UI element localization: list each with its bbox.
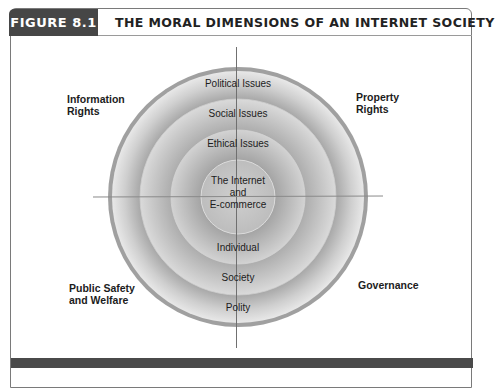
dimension-information-rights: Information Rights <box>67 93 125 117</box>
core-label-line3: E-commerce <box>188 199 288 210</box>
dimension-information-rights-line2: Rights <box>67 105 125 117</box>
dimension-property-rights: Property Rights <box>356 91 399 115</box>
dimension-public-safety-welfare: Public Safety and Welfare <box>69 282 135 306</box>
footer-bar <box>11 358 473 368</box>
dimension-governance: Governance <box>358 279 419 291</box>
dimension-information-rights-line1: Information <box>67 93 125 105</box>
dimension-public-safety-line1: Public Safety <box>69 282 135 294</box>
dimension-property-rights-line2: Rights <box>356 103 399 115</box>
core-label-line2: and <box>188 187 288 198</box>
ring-label-individual: Individual <box>188 242 288 253</box>
core-label-line1: The Internet <box>188 175 288 186</box>
dimension-property-rights-line1: Property <box>356 91 399 103</box>
dimension-public-safety-line2: and Welfare <box>69 294 135 306</box>
ring-label-polity: Polity <box>188 302 288 313</box>
ring-label-political-issues: Political Issues <box>188 78 288 89</box>
ring-label-social-issues: Social Issues <box>188 108 288 119</box>
dimension-governance-line1: Governance <box>358 279 419 291</box>
ring-label-ethical-issues: Ethical Issues <box>188 138 288 149</box>
ring-label-society: Society <box>188 272 288 283</box>
